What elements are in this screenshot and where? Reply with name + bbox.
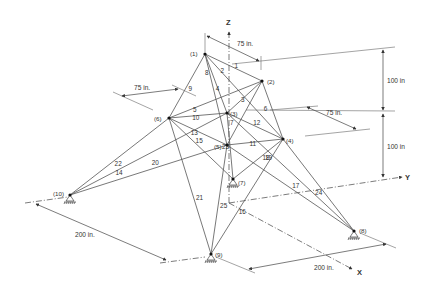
member-label: 19 [265, 154, 273, 161]
node-7 [231, 177, 234, 180]
member-19 [227, 113, 354, 231]
x-axis [229, 203, 352, 269]
node-label: (2) [267, 78, 275, 85]
truss-diagram: Z Y X 1234567891011121314151617181920212… [0, 0, 428, 288]
node-label: (8) [359, 227, 367, 234]
member-label: 12 [253, 119, 261, 126]
x-axis-label: X [357, 268, 362, 277]
node-4 [281, 137, 284, 140]
dim-mid-width-label: 75 in. [326, 109, 342, 116]
member-label: 3 [241, 96, 245, 103]
ext-line [172, 85, 196, 96]
base-left-axis [25, 197, 68, 203]
member-label: 5 [193, 106, 197, 113]
member-18 [233, 139, 283, 179]
member-label: 22 [115, 160, 123, 167]
truss-members [70, 54, 354, 254]
dim-upper-height-label: 100 in [387, 77, 405, 84]
member-label: 9 [188, 85, 192, 92]
member-label: 25 [220, 202, 228, 209]
node-label: (3) [230, 110, 238, 117]
dim-lower-height-label: 100 in [387, 143, 405, 150]
y-axis-label: Y [405, 173, 410, 182]
member-17 [227, 145, 354, 231]
node-6 [167, 116, 170, 119]
member-label: 7 [230, 119, 234, 126]
member-label: 13 [191, 129, 199, 136]
member-label: 20 [152, 159, 160, 166]
node-1 [203, 52, 206, 55]
ext-line [232, 47, 395, 64]
ext-line [305, 129, 370, 136]
member-label: 15 [196, 137, 204, 144]
node-3 [225, 111, 228, 114]
member-label: 14 [116, 169, 124, 176]
node-label: (10) [53, 190, 64, 197]
member-label: 24 [315, 189, 323, 196]
node-label: (7) [238, 179, 246, 186]
member-label: 17 [292, 182, 300, 189]
node-5 [225, 143, 228, 146]
member-label: 16 [239, 208, 247, 215]
member-label: 2 [221, 67, 225, 74]
member-label: 4 [216, 85, 220, 92]
member-label: 10 [192, 114, 200, 121]
dim-base-left-label: 200 in. [75, 231, 95, 238]
member-label: 8 [205, 69, 209, 76]
z-axis-label: Z [226, 18, 231, 27]
node-label: (9) [215, 251, 223, 258]
base-front-axis [160, 257, 205, 263]
member-label: 6 [264, 105, 268, 112]
ext-line [270, 106, 318, 110]
node-label: (1) [190, 50, 198, 57]
node-9 [209, 252, 212, 255]
member-20 [70, 145, 227, 195]
member-label: 11 [249, 140, 256, 147]
member-14 [70, 113, 227, 195]
node-label: (5) [214, 143, 222, 150]
node-8 [352, 229, 355, 232]
node-label: (6) [154, 115, 162, 122]
ext-line [216, 257, 255, 273]
node-label: (4) [286, 137, 294, 144]
node-10 [68, 193, 71, 196]
dim-base-left [36, 204, 166, 260]
dim-base-right-label: 200 in. [314, 264, 334, 271]
ext-line [246, 110, 395, 111]
member-25 [211, 145, 227, 254]
node-2 [260, 79, 263, 82]
member-22 [70, 118, 169, 195]
dim-top-width-label: 75 in. [237, 40, 253, 47]
dim-top-depth-label: 75 in. [134, 84, 150, 91]
member-16 [211, 139, 283, 254]
member-label: 21 [196, 194, 204, 201]
